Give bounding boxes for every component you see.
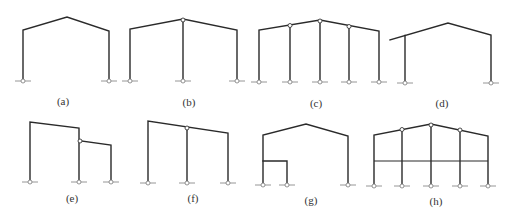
pinned-support-icon <box>279 183 295 187</box>
frame-e <box>22 122 119 184</box>
pinned-support-icon <box>103 180 119 184</box>
caption-f: (f) <box>188 193 199 204</box>
pinned-support-icon <box>423 184 439 188</box>
pinned-support-icon <box>312 80 328 84</box>
pinned-support-icon <box>341 80 357 84</box>
pinned-support-icon <box>71 180 87 184</box>
frame-b <box>122 18 245 83</box>
caption-d: (d) <box>436 98 449 109</box>
pinned-support-icon <box>22 180 38 184</box>
frames-canvas <box>0 0 505 221</box>
hinge-icon <box>78 139 82 143</box>
caption-h: (h) <box>430 196 443 207</box>
pinned-support-icon <box>255 183 271 187</box>
hinge-icon <box>181 18 185 22</box>
caption-g: (g) <box>305 195 318 206</box>
hinge-icon <box>400 128 404 132</box>
pinned-support-icon <box>371 80 387 84</box>
pinned-support-icon <box>140 181 156 185</box>
frame-f <box>140 121 236 185</box>
caption-b: (b) <box>183 97 196 108</box>
pinned-support-icon <box>483 81 499 85</box>
pinned-support-icon <box>251 80 267 84</box>
pinned-support-icon <box>122 79 138 83</box>
portal-frame-figure: (a) (b) (c) (d) (e) (f) (g) (h) <box>0 0 505 221</box>
frame-h <box>366 123 496 188</box>
caption-a: (a) <box>57 96 69 107</box>
pinned-support-icon <box>175 79 191 83</box>
pinned-support-icon <box>15 79 31 83</box>
caption-e: (e) <box>66 193 78 204</box>
pinned-support-icon <box>229 79 245 83</box>
caption-c: (c) <box>310 98 322 109</box>
pinned-support-icon <box>397 81 413 85</box>
hinge-icon <box>458 128 462 132</box>
pinned-support-icon <box>220 181 236 185</box>
hinge-icon <box>429 123 433 127</box>
pinned-support-icon <box>282 80 298 84</box>
frame-c <box>251 19 387 84</box>
hinge-icon <box>318 19 322 23</box>
pinned-support-icon <box>101 79 117 83</box>
pinned-support-icon <box>452 184 468 188</box>
pinned-support-icon <box>480 184 496 188</box>
hinge-icon <box>288 24 292 28</box>
frame-g <box>255 124 356 187</box>
pinned-support-icon <box>179 181 195 185</box>
frame-d <box>390 23 499 85</box>
frame-a <box>15 17 117 83</box>
pinned-support-icon <box>366 184 382 188</box>
pinned-support-icon <box>340 183 356 187</box>
hinge-icon <box>185 126 189 130</box>
pinned-support-icon <box>394 184 410 188</box>
hinge-icon <box>347 25 351 29</box>
